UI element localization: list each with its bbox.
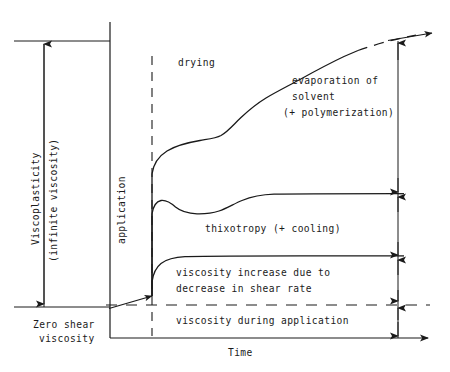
- drying-label: drying: [178, 57, 215, 68]
- series-thixotropy: [152, 194, 404, 296]
- viscosity-vs-time-figure: Viscoplasticity (infinite viscosity) Zer…: [0, 0, 450, 372]
- y-axis-label-secondary: (infinite viscosity): [48, 138, 59, 262]
- zero-shear-label-line1: Zero shear: [33, 319, 95, 330]
- viscosity-increase-label-line1: viscosity increase due to: [176, 267, 330, 278]
- thixotropy-label: thixotropy (+ cooling): [205, 223, 341, 234]
- viscosity-increase-label-line2: decrease in shear rate: [176, 283, 312, 294]
- rheology-diagram: Viscoplasticity (infinite viscosity) Zer…: [0, 0, 450, 372]
- viscoplasticity-bracket: [14, 41, 110, 307]
- evaporation-label-line1: evaporation of: [292, 75, 378, 86]
- zero-shear-label-line2: viscosity: [39, 333, 95, 344]
- pre-application-ramp: [109, 296, 152, 309]
- thixotropy-curve: [152, 194, 398, 296]
- evaporation-label-line2: solvent: [292, 91, 335, 102]
- evaporation-label-line3: (+ polymerization): [283, 107, 394, 118]
- x-axis-label: Time: [228, 347, 253, 358]
- y-axis-label-primary: Viscoplasticity: [30, 152, 41, 245]
- drying-curve-arrow: [388, 33, 432, 41]
- drying-curve-solid: [152, 51, 358, 297]
- viscosity-during-application-label: viscosity during application: [176, 315, 349, 326]
- application-label: application: [116, 176, 127, 244]
